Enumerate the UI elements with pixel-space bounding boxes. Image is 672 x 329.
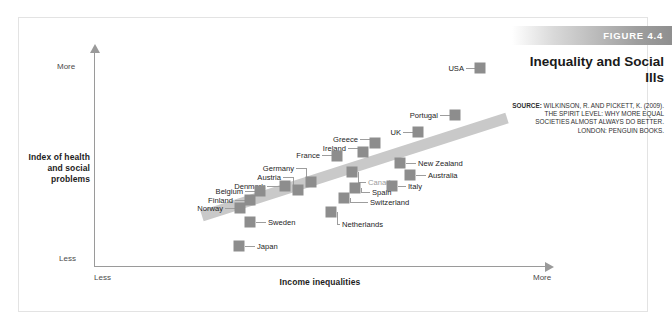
point-leader-line (337, 224, 341, 225)
data-point-label: Australia (428, 171, 458, 180)
data-point-marker[interactable] (413, 127, 424, 138)
data-point-label: New Zealand (418, 159, 463, 168)
data-point-marker[interactable] (370, 138, 381, 149)
x-axis-arrow-icon (545, 262, 554, 272)
data-point-marker[interactable] (255, 186, 266, 197)
data-point-label: Greece (333, 135, 358, 144)
data-point-label: Portugal (410, 111, 438, 120)
point-leader-line (225, 208, 235, 209)
data-point-marker[interactable] (339, 193, 350, 204)
data-point-marker[interactable] (245, 217, 256, 228)
figure-number-label: FIGURE 4.4 (603, 30, 663, 41)
data-point-marker[interactable] (306, 177, 317, 188)
point-leader-line (267, 186, 280, 187)
point-leader-line (358, 172, 359, 182)
point-leader-line (283, 177, 293, 178)
point-leader-line (337, 212, 338, 224)
point-leader-line (235, 200, 245, 201)
point-leader-line (416, 175, 427, 176)
x-axis-min-label: Less (94, 273, 111, 282)
y-axis-line (94, 52, 95, 267)
point-leader-line (361, 192, 371, 193)
x-axis-max-label: More (533, 273, 551, 282)
point-leader-line (348, 148, 358, 149)
data-point-label: USA (448, 64, 464, 73)
data-point-marker[interactable] (347, 167, 358, 178)
point-leader-line (398, 186, 407, 187)
data-point-marker[interactable] (332, 151, 343, 162)
data-point-label: Belgium (216, 187, 243, 196)
point-leader-line (403, 132, 413, 133)
y-axis-min-label: Less (59, 254, 76, 263)
data-point-marker[interactable] (234, 241, 245, 252)
data-point-label: Netherlands (342, 220, 383, 229)
data-point-marker[interactable] (405, 170, 416, 181)
y-axis-arrow-icon (90, 44, 100, 53)
point-leader-line (406, 163, 417, 164)
data-point-label: Switzerland (370, 198, 409, 207)
data-point-marker[interactable] (293, 185, 304, 196)
figure-root: Index of health and social problems Inco… (0, 0, 672, 329)
point-leader-line (350, 198, 351, 202)
figure-source-prefix: SOURCE: (512, 102, 541, 109)
point-leader-line (245, 191, 255, 192)
data-point-marker[interactable] (326, 207, 337, 218)
y-axis-title: Index of health and social problems (18, 152, 90, 185)
data-point-label: Japan (257, 242, 278, 251)
data-point-label: Spain (372, 188, 391, 197)
point-leader-line (440, 115, 450, 116)
point-leader-line (466, 68, 475, 69)
data-point-marker[interactable] (450, 110, 461, 121)
figure-source-text: WILKINSON, R. AND PICKETT, K. (2009). TH… (535, 102, 664, 134)
data-point-label: France (296, 151, 320, 160)
x-axis-line (94, 266, 547, 267)
point-leader-line (360, 139, 370, 140)
data-point-label: Austria (257, 173, 281, 182)
data-point-marker[interactable] (475, 63, 486, 74)
data-point-label: Sweden (268, 218, 295, 227)
data-point-marker[interactable] (235, 203, 246, 214)
data-point-label: Germany (263, 164, 294, 173)
figure-title: Inequality and Social Ills (512, 54, 664, 86)
point-leader-line (256, 222, 267, 223)
x-axis-title: Income inequalities (225, 277, 415, 287)
point-leader-line (296, 168, 306, 169)
data-point-label: Norway (197, 204, 223, 213)
figure-caption-panel: FIGURE 4.4 Inequality and Social Ills SO… (512, 26, 672, 156)
figure-source: SOURCE: WILKINSON, R. AND PICKETT, K. (2… (512, 102, 664, 135)
point-leader-line (322, 155, 332, 156)
data-point-marker[interactable] (358, 147, 369, 158)
data-point-label: Italy (408, 182, 422, 191)
point-leader-line (350, 202, 369, 203)
data-point-marker[interactable] (245, 195, 256, 206)
data-point-marker[interactable] (395, 158, 406, 169)
data-point-marker[interactable] (350, 183, 361, 194)
point-leader-line (361, 188, 362, 192)
y-axis-max-label: More (57, 62, 75, 71)
data-point-marker[interactable] (280, 181, 291, 192)
data-point-label: UK (390, 128, 401, 137)
point-leader-line (245, 246, 256, 247)
